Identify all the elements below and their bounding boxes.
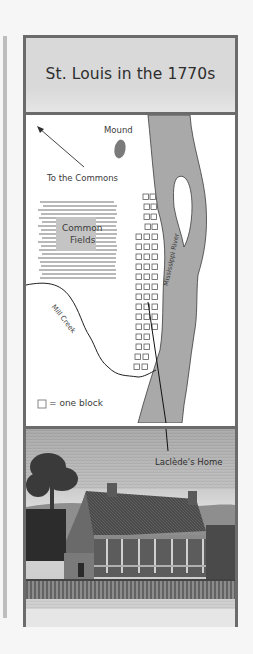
legend-block-swatch [38,400,46,408]
mound-shape [113,139,127,160]
chimney-right [188,491,197,505]
chimney-left [107,483,117,497]
page-side-rule [3,36,7,618]
figure-title: St. Louis in the 1770s [46,65,216,83]
mound-label: Mound [104,125,133,135]
common-fields-label-2: Fields [70,235,95,245]
title-panel: St. Louis in the 1770s [26,38,235,115]
map-graphic [26,115,235,423]
legend-label: = one block [49,398,103,408]
figure-frame: St. Louis in the 1770s [23,35,238,627]
common-fields-label-1: Common [62,223,103,233]
to-commons-label: To the Commons [47,173,118,183]
laclede-home-illustration: Laclède's Home [26,426,235,627]
laclede-home-label: Laclède's Home [155,457,222,467]
house-porch [94,537,206,577]
map-panel: Mound To the Commons Common Fields Missi… [26,115,235,423]
picket-fence [26,579,235,599]
